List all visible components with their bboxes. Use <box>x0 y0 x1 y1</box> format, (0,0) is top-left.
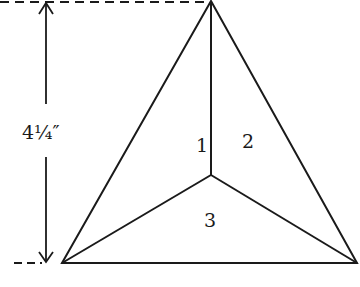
interior-line-to-left-corner <box>62 175 211 263</box>
interior-line-to-right-corner <box>211 175 357 263</box>
region-label-3: 3 <box>204 209 216 231</box>
region-label-2: 2 <box>242 130 254 152</box>
dimension-label: 4¼″ <box>22 121 60 143</box>
triangle-diagram: 4¼″ 1 2 3 <box>0 0 360 287</box>
region-label-1: 1 <box>196 134 208 156</box>
